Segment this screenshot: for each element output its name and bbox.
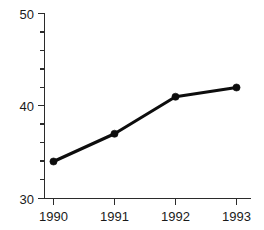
data-point-1990: [50, 158, 57, 165]
axes-group: [45, 13, 252, 199]
y-tick-labels: 50 40 30: [20, 7, 34, 207]
series-line: [54, 88, 237, 162]
y-axis-label-30: 30: [20, 192, 34, 207]
x-tick-labels: 1990 1991 1992 1993: [39, 209, 251, 224]
data-point-1991: [111, 130, 118, 137]
data-point-1993: [233, 84, 240, 91]
y-axis-label-50: 50: [20, 7, 34, 22]
data-point-1992: [172, 93, 179, 100]
x-axis-label-1990: 1990: [39, 209, 68, 224]
chart-plot-area: 50 40 30 1990 1991 1992 1993: [0, 0, 264, 230]
x-axis-label-1992: 1992: [161, 209, 190, 224]
y-axis-label-40: 40: [20, 99, 34, 114]
x-ticks: [54, 199, 237, 206]
y-major-ticks: [38, 14, 45, 199]
x-axis-label-1993: 1993: [222, 209, 251, 224]
line-chart: 50 40 30 1990 1991 1992 1993: [0, 0, 264, 230]
x-axis-label-1991: 1991: [100, 209, 129, 224]
series-markers: [50, 84, 240, 165]
